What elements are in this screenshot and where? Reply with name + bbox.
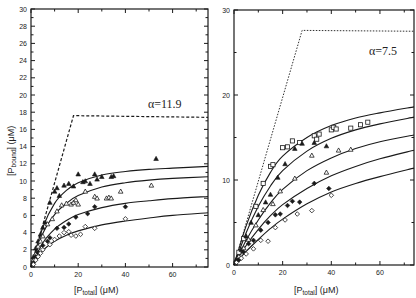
data-point-triangle-filled xyxy=(268,192,273,196)
data-point-diamond-filled xyxy=(66,222,71,227)
data-point-triangle-open xyxy=(261,207,266,211)
data-point-triangle-filled xyxy=(41,225,46,229)
y-tick-label: 28 xyxy=(19,23,27,30)
data-point-square-open xyxy=(334,127,338,131)
y-tick-label: 16 xyxy=(19,126,27,133)
data-point-diamond-filled xyxy=(297,200,302,205)
x-tick-label: 40 xyxy=(122,271,130,278)
right-plot-data xyxy=(234,30,414,265)
y-tick-label: 4 xyxy=(23,229,27,236)
data-point-diamond-open xyxy=(78,232,83,237)
y-tick-label: 8 xyxy=(23,195,27,202)
left-x-axis-label: [Ptotal] (μM) xyxy=(74,285,119,296)
x-tick-label: 60 xyxy=(169,271,177,278)
fit-curve xyxy=(31,166,208,267)
fit-curve xyxy=(31,196,208,267)
fit-curve xyxy=(234,150,414,265)
data-point-diamond-filled xyxy=(55,226,60,231)
y-tick-label: 6 xyxy=(23,212,27,219)
data-point-triangle-open xyxy=(83,189,88,193)
y-tick-label: 10 xyxy=(19,178,27,185)
right-panel: 02040600102030 α=7.5 [Ptotal] (μM) xyxy=(222,7,414,297)
x-tick-label: 0 xyxy=(29,271,33,278)
left-alpha-annotation: α=11.9 xyxy=(148,97,182,111)
y-tick-label: 0 xyxy=(23,264,27,271)
data-point-diamond-open xyxy=(295,212,300,217)
data-point-diamond-open xyxy=(62,230,67,235)
data-point-triangle-open xyxy=(324,170,329,174)
y-tick-label: 2 xyxy=(23,246,27,253)
data-point-triangle-filled xyxy=(154,156,159,160)
data-point-triangle-filled xyxy=(263,200,268,204)
y-tick-label: 20 xyxy=(222,92,230,99)
right-alpha-annotation: α=7.5 xyxy=(369,44,397,58)
x-tick-label: 20 xyxy=(279,269,287,276)
data-point-square-open xyxy=(317,132,321,136)
data-point-triangle-open xyxy=(118,189,123,193)
data-point-triangle-open xyxy=(336,148,341,152)
data-point-diamond-filled xyxy=(92,205,97,210)
data-point-square-open xyxy=(315,137,319,141)
data-point-diamond-filled xyxy=(266,220,271,225)
fit-curve xyxy=(234,135,414,265)
y-tick-label: 0 xyxy=(226,262,230,269)
data-point-triangle-filled xyxy=(249,220,254,224)
data-point-diamond-open xyxy=(74,234,79,239)
data-point-triangle-filled xyxy=(66,181,71,185)
x-tick-label: 40 xyxy=(327,269,335,276)
data-point-square-open xyxy=(261,181,265,185)
data-point-diamond-open xyxy=(329,193,334,198)
right-x-axis-label: [Ptotal] (μM) xyxy=(294,285,339,296)
y-tick-label: 14 xyxy=(19,143,27,150)
data-point-square-open xyxy=(290,139,294,143)
data-point-triangle-open xyxy=(149,183,154,187)
y-tick-label: 26 xyxy=(19,40,27,47)
data-point-triangle-filled xyxy=(256,213,261,217)
y-tick-label: 10 xyxy=(222,177,230,184)
data-point-square-open xyxy=(366,120,370,124)
data-point-triangle-filled xyxy=(62,183,67,187)
data-point-triangle-open xyxy=(254,223,259,227)
figure: 0204060024681012141618202224262830 α=11.… xyxy=(0,0,416,298)
data-point-diamond-open xyxy=(52,237,57,242)
data-point-square-open xyxy=(349,126,353,130)
data-point-triangle-open xyxy=(76,202,81,206)
left-y-axis-label: [Pbound] (μM) xyxy=(6,126,17,176)
data-point-diamond-filled xyxy=(290,199,295,204)
x-tick-label: 20 xyxy=(74,271,82,278)
fit-curve xyxy=(31,213,208,267)
y-tick-label: 24 xyxy=(19,57,27,64)
y-tick-label: 12 xyxy=(19,160,27,167)
data-point-square-open xyxy=(281,146,285,150)
data-point-diamond-filled xyxy=(278,212,283,217)
y-tick-label: 18 xyxy=(19,109,27,116)
y-tick-label: 30 xyxy=(19,6,27,13)
data-point-triangle-filled xyxy=(283,162,288,166)
data-point-diamond-filled xyxy=(273,213,278,218)
left-panel: 0204060024681012141618202224262830 α=11.… xyxy=(6,6,208,297)
data-point-diamond-filled xyxy=(327,186,332,191)
data-point-diamond-open xyxy=(266,239,271,244)
data-point-square-open xyxy=(285,145,289,149)
left-plot-data xyxy=(31,116,208,267)
data-point-diamond-filled xyxy=(74,215,79,220)
data-point-square-open xyxy=(358,123,362,127)
data-point-diamond-filled xyxy=(285,203,290,208)
data-point-triangle-filled xyxy=(48,200,53,204)
y-tick-label: 20 xyxy=(19,92,27,99)
data-point-square-open xyxy=(271,163,275,167)
data-point-triangle-open xyxy=(59,203,64,207)
data-point-triangle-open xyxy=(310,153,315,157)
y-tick-label: 30 xyxy=(222,7,230,14)
data-point-square-open xyxy=(254,204,258,208)
data-point-diamond-filled xyxy=(246,241,251,246)
data-point-triangle-filled xyxy=(76,172,81,176)
data-point-triangle-filled xyxy=(88,181,93,185)
data-point-triangle-filled xyxy=(324,144,329,148)
data-point-diamond-filled xyxy=(62,225,67,230)
x-tick-label: 60 xyxy=(376,269,384,276)
x-tick-label: 0 xyxy=(232,269,236,276)
y-tick-label: 22 xyxy=(19,74,27,81)
data-point-diamond-open xyxy=(310,208,315,213)
data-point-triangle-filled xyxy=(92,172,97,176)
